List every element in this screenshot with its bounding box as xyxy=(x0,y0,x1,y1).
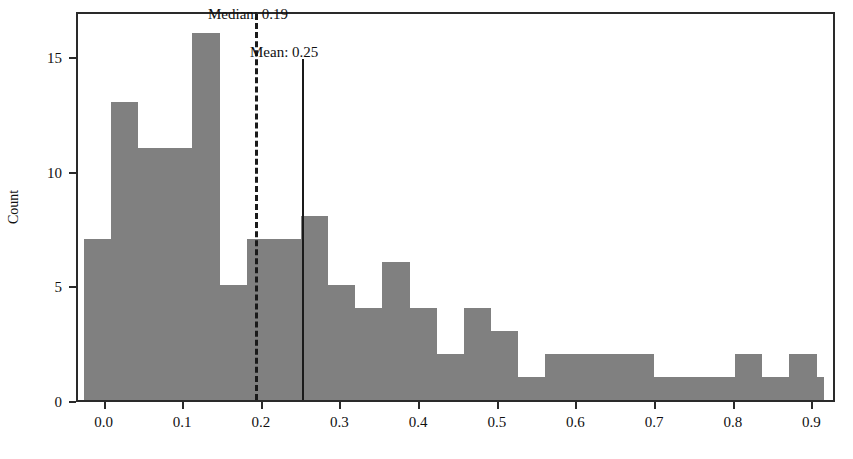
x-tick-label: 0.0 xyxy=(94,414,113,431)
x-tick-mark xyxy=(811,402,813,409)
histogram-figure: Count 051015 Median: 0.19 Mean: 0.25 0.0… xyxy=(0,0,853,459)
histogram-bar xyxy=(735,354,762,400)
histogram-bar xyxy=(84,239,111,400)
histogram-bar xyxy=(247,239,274,400)
plot-area xyxy=(76,12,835,402)
x-tick-label: 0.5 xyxy=(487,414,506,431)
y-tick-mark xyxy=(69,286,76,288)
bars-group xyxy=(78,14,833,400)
histogram-bar xyxy=(681,377,708,400)
mean-reference-line xyxy=(302,59,304,400)
y-tick-label: 10 xyxy=(47,164,62,181)
x-tick-label: 0.8 xyxy=(723,414,742,431)
histogram-bar xyxy=(545,354,572,400)
x-tick-mark xyxy=(182,402,184,409)
x-tick-mark xyxy=(261,402,263,409)
histogram-bar xyxy=(491,331,518,400)
mean-annotation-label: Mean: 0.25 xyxy=(250,44,318,61)
histogram-bar xyxy=(789,354,816,400)
y-tick-mark xyxy=(69,172,76,174)
histogram-bar xyxy=(708,377,735,400)
histogram-bar xyxy=(301,216,328,400)
y-tick-label: 5 xyxy=(55,279,63,296)
histogram-bar xyxy=(165,148,192,400)
histogram-bar xyxy=(654,377,681,400)
y-tick-label: 15 xyxy=(47,49,62,66)
histogram-bar xyxy=(382,262,409,400)
histogram-bar xyxy=(138,148,165,400)
y-axis: Count 051015 xyxy=(0,12,76,402)
histogram-bar xyxy=(627,354,654,400)
histogram-bar xyxy=(111,102,138,400)
histogram-bar xyxy=(572,354,599,400)
y-tick-mark xyxy=(69,57,76,59)
x-tick-mark xyxy=(418,402,420,409)
median-annotation-label: Median: 0.19 xyxy=(208,6,288,23)
x-tick-mark xyxy=(339,402,341,409)
histogram-bar xyxy=(328,285,355,400)
x-tick-label: 0.2 xyxy=(251,414,270,431)
histogram-bar xyxy=(817,377,824,400)
x-tick-label: 0.3 xyxy=(330,414,349,431)
histogram-bar xyxy=(518,377,545,400)
histogram-bar xyxy=(192,33,219,400)
x-tick-label: 0.9 xyxy=(802,414,821,431)
x-tick-mark xyxy=(497,402,499,409)
x-tick-mark xyxy=(104,402,106,409)
histogram-bar xyxy=(274,239,301,400)
x-tick-mark xyxy=(575,402,577,409)
histogram-bar xyxy=(355,308,382,400)
histogram-bar xyxy=(410,308,437,400)
histogram-bar xyxy=(599,354,626,400)
histogram-bar xyxy=(762,377,789,400)
y-axis-title: Count xyxy=(6,190,22,224)
x-tick-label: 0.1 xyxy=(173,414,192,431)
histogram-bar xyxy=(220,285,247,400)
x-tick-mark xyxy=(733,402,735,409)
x-tick-label: 0.6 xyxy=(566,414,585,431)
x-axis: 0.00.10.20.30.40.50.60.70.80.9 xyxy=(0,402,853,459)
histogram-bar xyxy=(464,308,491,400)
histogram-bar xyxy=(437,354,464,400)
x-tick-mark xyxy=(654,402,656,409)
x-tick-label: 0.4 xyxy=(409,414,428,431)
median-reference-line xyxy=(255,14,258,400)
x-tick-label: 0.7 xyxy=(645,414,664,431)
